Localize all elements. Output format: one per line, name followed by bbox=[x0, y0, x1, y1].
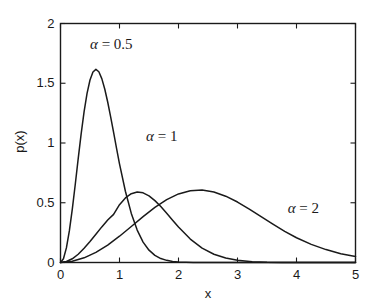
plot-area bbox=[0, 0, 379, 306]
axes-frame bbox=[61, 24, 356, 263]
curve-annotation: α = 0.5 bbox=[90, 37, 133, 52]
x-tick-label: 3 bbox=[218, 268, 258, 281]
data-curves bbox=[61, 69, 356, 262]
y-tick-label: 0 bbox=[13, 256, 55, 269]
curve-annotation: α = 2 bbox=[288, 201, 319, 216]
x-tick-label: 5 bbox=[336, 268, 376, 281]
y-tick-label: 0.5 bbox=[13, 196, 55, 209]
curve-0.5 bbox=[61, 69, 356, 262]
axis-ticks bbox=[61, 24, 356, 263]
curve-annotation: α = 1 bbox=[146, 129, 177, 144]
y-tick-label: 1 bbox=[13, 136, 55, 149]
y-tick-label: 1.5 bbox=[13, 76, 55, 89]
x-tick-label: 4 bbox=[277, 268, 317, 281]
x-tick-label: 2 bbox=[159, 268, 199, 281]
x-tick-label: 1 bbox=[100, 268, 140, 281]
y-tick-label: 2 bbox=[13, 17, 55, 30]
chart-figure: p(x) x 012345 00.511.52 α = 0.5α = 1α = … bbox=[0, 0, 379, 306]
x-axis-label: x bbox=[188, 287, 228, 300]
